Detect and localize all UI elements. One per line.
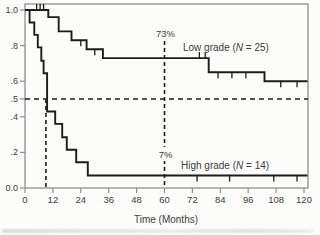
x-tick-label: 96 <box>243 194 254 205</box>
x-tick-label: 0 <box>22 194 27 205</box>
series-label-high-grade: High grade (N = 14) <box>181 160 269 171</box>
km-chart-canvas: 1.0.8.6.5.4.20.001224364860728496108120 … <box>0 0 320 235</box>
scan-artifact <box>2 229 314 233</box>
x-tick-label: 24 <box>76 194 87 205</box>
y-tick-label: 1.0 <box>5 5 18 15</box>
y-tick-label: 0.0 <box>5 183 18 193</box>
x-tick-label: 108 <box>268 194 284 205</box>
high-grade-pct-label: 7% <box>159 149 173 160</box>
x-tick-label: 12 <box>48 194 59 205</box>
x-tick-label: 48 <box>131 194 142 205</box>
y-tick-label: .2 <box>10 147 18 157</box>
x-tick-label: 60 <box>159 194 170 205</box>
y-tick-label: .6 <box>10 76 18 86</box>
x-tick-label: 72 <box>187 194 198 205</box>
low-grade-pct-label: 73% <box>156 28 176 39</box>
y-tick-label: .5 <box>10 94 18 104</box>
series-label-low-grade: Low grade (N = 25) <box>183 42 269 53</box>
x-axis-title: Time (Months) <box>134 214 198 225</box>
x-tick-label: 36 <box>103 194 114 205</box>
y-tick-label: .8 <box>10 41 18 51</box>
km-survival-figure: 1.0.8.6.5.4.20.001224364860728496108120 … <box>0 0 320 235</box>
y-tick-label: .4 <box>10 112 18 122</box>
x-tick-label: 120 <box>296 194 312 205</box>
x-tick-label: 84 <box>215 194 226 205</box>
